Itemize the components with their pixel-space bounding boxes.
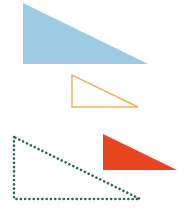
blue-filled-triangle xyxy=(23,3,148,64)
triangles-canvas xyxy=(0,0,195,219)
red-filled-triangle xyxy=(103,134,177,170)
orange-outline-triangle xyxy=(72,75,138,107)
